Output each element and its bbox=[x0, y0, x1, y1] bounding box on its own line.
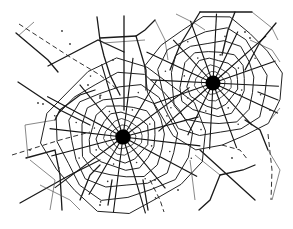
cell-edge bbox=[199, 175, 220, 210]
cell-edge bbox=[25, 125, 28, 158]
seed-point bbox=[269, 109, 271, 111]
cell-edge bbox=[16, 33, 58, 72]
seed-point bbox=[95, 149, 97, 151]
seed-point bbox=[184, 75, 186, 77]
seed-point bbox=[69, 43, 71, 45]
seed-point bbox=[187, 97, 189, 99]
seed-point bbox=[132, 109, 134, 111]
cell-edge bbox=[55, 90, 95, 120]
seed-point bbox=[29, 149, 31, 151]
web-core bbox=[206, 76, 221, 91]
seed-point bbox=[107, 181, 109, 183]
seed-point bbox=[241, 89, 243, 91]
seed-point bbox=[61, 30, 63, 32]
web-spoke bbox=[213, 83, 279, 86]
seed-point bbox=[227, 107, 229, 109]
seed-point bbox=[249, 37, 251, 39]
seed-point bbox=[149, 123, 151, 125]
seed-point bbox=[144, 178, 146, 180]
seed-point bbox=[145, 71, 147, 73]
seed-point bbox=[54, 115, 56, 117]
seed-point bbox=[99, 95, 101, 97]
seed-point bbox=[154, 179, 156, 181]
cell-edge bbox=[108, 180, 112, 205]
cell-edge bbox=[97, 17, 120, 95]
seed-point bbox=[109, 111, 111, 113]
seed-point bbox=[169, 151, 171, 153]
seed-point bbox=[113, 163, 115, 165]
seed-point bbox=[254, 58, 256, 60]
web-spoke bbox=[123, 137, 146, 213]
web-core bbox=[116, 130, 131, 145]
voronoi-web-diagram bbox=[0, 0, 293, 229]
seed-point bbox=[78, 157, 80, 159]
seed-point bbox=[37, 102, 39, 104]
cell-edge bbox=[100, 20, 155, 38]
seed-point bbox=[224, 36, 226, 38]
seed-point bbox=[75, 122, 77, 124]
seed-point bbox=[99, 204, 101, 206]
seed-point bbox=[155, 197, 157, 199]
seed-point bbox=[90, 75, 92, 77]
seed-point bbox=[112, 59, 114, 61]
seed-point bbox=[239, 94, 241, 96]
seed-point bbox=[231, 157, 233, 159]
seed-point bbox=[260, 94, 262, 96]
seed-point bbox=[138, 92, 140, 94]
web-spoke bbox=[47, 97, 123, 138]
seed-point bbox=[200, 129, 202, 131]
seed-point bbox=[197, 57, 199, 59]
seed-point bbox=[94, 127, 96, 129]
web-spoke bbox=[210, 83, 213, 149]
cell-edge bbox=[25, 120, 55, 125]
web-spoke bbox=[213, 14, 217, 83]
radial-web-center-b bbox=[145, 14, 283, 150]
seed-point bbox=[187, 41, 189, 43]
web-spoke bbox=[50, 129, 123, 137]
cell-edge bbox=[268, 150, 280, 200]
seed-point bbox=[136, 162, 138, 164]
cell-edge bbox=[190, 160, 195, 200]
cell-edge bbox=[222, 12, 235, 55]
cell-edge bbox=[200, 150, 255, 200]
seed-point bbox=[151, 145, 153, 147]
seed-point bbox=[177, 189, 179, 191]
cell-edge bbox=[222, 145, 248, 160]
seed-point bbox=[219, 54, 221, 56]
seed-point bbox=[100, 201, 102, 203]
seed-point bbox=[170, 107, 172, 109]
seed-point bbox=[237, 124, 239, 126]
cell-edge bbox=[258, 92, 278, 100]
seed-point bbox=[42, 103, 44, 105]
cell-edge bbox=[26, 150, 62, 210]
cell-edge bbox=[268, 134, 272, 200]
cell-edge bbox=[136, 36, 146, 90]
seed-point bbox=[186, 105, 188, 107]
seed-point bbox=[166, 115, 168, 117]
seed-point bbox=[165, 71, 167, 73]
seed-point bbox=[205, 110, 207, 112]
cell-edge bbox=[48, 40, 124, 66]
seed-point bbox=[191, 158, 193, 160]
seed-point bbox=[87, 84, 89, 86]
cell-edge bbox=[155, 20, 168, 60]
seed-point bbox=[58, 167, 60, 169]
web-spoke bbox=[213, 83, 252, 125]
seed-point bbox=[238, 67, 240, 69]
cell-edge bbox=[80, 165, 100, 200]
seed-point bbox=[99, 97, 101, 99]
seed-point bbox=[244, 31, 246, 33]
